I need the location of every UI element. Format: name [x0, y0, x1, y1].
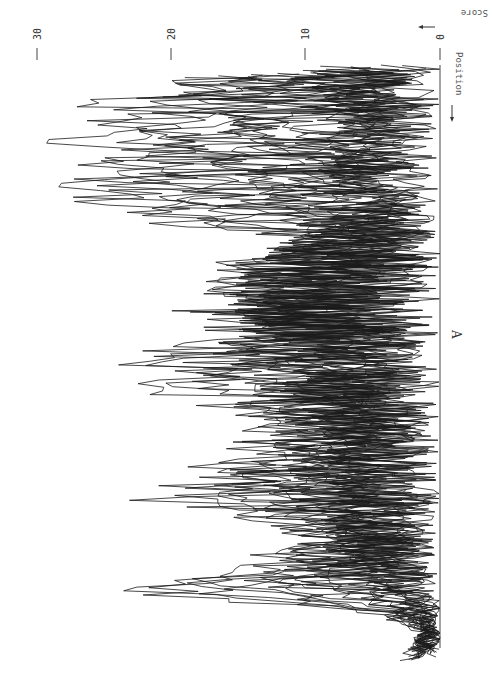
score-axis-label: Score: [461, 8, 488, 18]
panel-label: A: [449, 329, 463, 339]
position-axis-label: Position: [454, 52, 464, 95]
score-position-chart: 30 20 10 0 Score Position A: [0, 0, 492, 673]
tick-30: 30: [32, 28, 43, 40]
plot-area: [47, 65, 440, 661]
tick-0: 0: [435, 34, 446, 40]
score-arrow-head-icon: [418, 25, 423, 29]
position-arrow-head-icon: [450, 117, 454, 122]
tick-20: 20: [166, 28, 177, 40]
tick-10: 10: [300, 28, 311, 40]
